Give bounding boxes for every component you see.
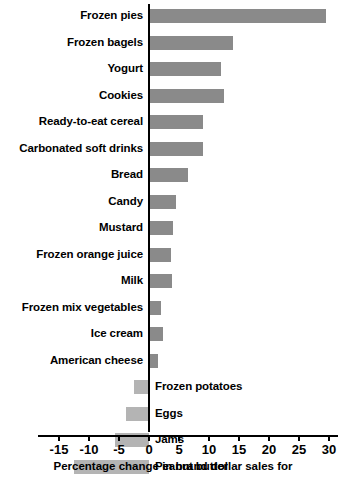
category-label: Ready-to-eat cereal [39,113,143,129]
x-tick-label: -10 [80,442,99,457]
bar [134,380,149,394]
bar [149,62,221,76]
x-tick-label: 20 [262,442,276,457]
x-tick [238,436,240,441]
bar [149,248,171,262]
x-tick [118,436,120,441]
category-label: Frozen potatoes [155,378,242,394]
x-tick-label: 5 [175,442,182,457]
bar-row: Frozen mix vegetables [0,295,346,322]
category-label: Frozen orange juice [36,246,143,262]
bar-row: Cookies [0,83,346,110]
x-tick [58,436,60,441]
bar-row: Frozen pies [0,3,346,30]
bar [149,168,188,182]
bar-row: Frozen bagels [0,30,346,57]
x-tick [208,436,210,441]
x-tick [88,436,90,441]
bar [149,195,176,209]
bar-row: Mustard [0,215,346,242]
plot-area: Frozen piesFrozen bagelsYogurtCookiesRea… [0,0,346,432]
x-tick-label: 10 [202,442,216,457]
category-label: Mustard [99,219,143,235]
bar [149,354,158,368]
x-tick [148,436,150,441]
category-label: American cheese [50,352,143,368]
zero-axis-line [148,4,150,432]
x-tick-label: 0 [145,442,152,457]
category-label: Candy [108,193,143,209]
bar-row: Eggs [0,401,346,428]
bar-row: Ice cream [0,321,346,348]
bar [149,142,203,156]
category-label: Yogurt [107,60,143,76]
x-tick [298,436,300,441]
x-tick-label: 25 [292,442,306,457]
bar-row: American cheese [0,348,346,375]
x-tick-label: 15 [232,442,246,457]
horizontal-bar-chart: Frozen piesFrozen bagelsYogurtCookiesRea… [0,0,346,477]
bar [149,9,326,23]
bar-row: Milk [0,268,346,295]
x-tick-label: 30 [322,442,336,457]
category-label: Carbonated soft drinks [19,140,143,156]
bar [126,407,149,421]
category-label: Bread [111,166,143,182]
category-label: Frozen mix vegetables [22,299,143,315]
x-tick [178,436,180,441]
category-label: Cookies [99,87,143,103]
category-label: Frozen pies [80,7,143,23]
x-tick [328,436,330,441]
bar-row: Candy [0,189,346,216]
bar [149,36,233,50]
bar-row: Ready-to-eat cereal [0,109,346,136]
bar-row: Bread [0,162,346,189]
category-label: Milk [121,272,143,288]
category-label: Eggs [155,405,183,421]
bar-row: Frozen potatoes [0,374,346,401]
bar [149,274,172,288]
category-label: Ice cream [91,325,143,341]
bar [149,89,224,103]
bar [149,327,163,341]
x-tick-label: -5 [113,442,125,457]
x-tick-label: -15 [50,442,69,457]
bar-row: Carbonated soft drinks [0,136,346,163]
bar [149,115,203,129]
category-label: Frozen bagels [67,34,143,50]
x-axis-title: Percentage change in brand dollar sales … [0,460,346,472]
bar-row: Yogurt [0,56,346,83]
bar [149,301,161,315]
bar [149,221,173,235]
bar-row: Frozen orange juice [0,242,346,269]
x-tick [268,436,270,441]
x-axis-line [38,435,338,437]
